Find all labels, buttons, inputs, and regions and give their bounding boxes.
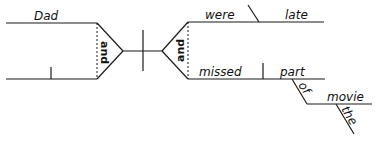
word-predicate-conjunction: and — [174, 39, 187, 62]
word-subject-1: Dad — [34, 9, 59, 23]
word-preposition: of — [295, 79, 314, 98]
predicate-adjective-slant — [248, 5, 259, 22]
sentence-diagram: Dad I and and were late missed part of m… — [0, 0, 378, 141]
word-object-of-preposition: movie — [327, 90, 364, 104]
word-subject-2: I — [48, 65, 52, 79]
word-subject-conjunction: and — [98, 41, 111, 64]
word-predicate-adjective: late — [285, 8, 308, 22]
word-verb-2: missed — [199, 65, 242, 79]
word-verb-1: were — [205, 8, 235, 22]
word-direct-object: part — [279, 65, 306, 79]
word-article: the — [338, 104, 360, 128]
